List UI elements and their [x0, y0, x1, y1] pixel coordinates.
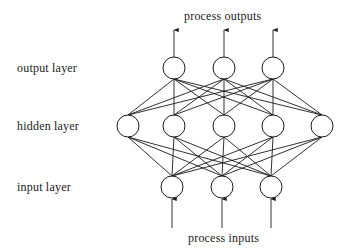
edge-output-hidden — [128, 79, 224, 115]
neural-network-diagram — [0, 0, 349, 251]
edge-hidden-input — [172, 137, 322, 176]
output-neuron — [262, 57, 284, 79]
edge-hidden-input — [172, 137, 174, 176]
input-neuron — [161, 176, 183, 198]
hidden-neuron — [262, 115, 284, 137]
hidden-neuron — [213, 115, 235, 137]
edge-hidden-input — [271, 137, 322, 176]
hidden-neuron — [117, 115, 139, 137]
output-neuron — [213, 57, 235, 79]
hidden-neuron — [163, 115, 185, 137]
output-neuron — [163, 57, 185, 79]
hidden-neuron — [311, 115, 333, 137]
edge-hidden-input — [172, 137, 224, 176]
neurons — [117, 57, 333, 198]
input-neuron — [211, 176, 233, 198]
edge-hidden-input — [128, 137, 222, 176]
edge-hidden-input — [222, 137, 322, 176]
edge-output-hidden — [128, 79, 273, 115]
edge-output-hidden — [273, 79, 322, 115]
input-neuron — [260, 176, 282, 198]
